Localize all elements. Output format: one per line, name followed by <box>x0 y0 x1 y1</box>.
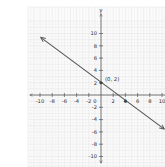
x-tick-label: 0 <box>93 98 96 104</box>
x-tick-label: -6 <box>62 98 67 104</box>
x-tick-label: -2 <box>86 98 91 104</box>
point-label: (0, 2) <box>105 76 119 82</box>
y-tick-label: 2 <box>94 80 97 86</box>
y-tick-label: -10 <box>89 153 97 159</box>
y-tick-label: 6 <box>94 55 97 61</box>
x-tick-label: 6 <box>136 98 139 104</box>
data-point <box>124 100 127 103</box>
y-tick-label: 10 <box>90 30 97 36</box>
x-tick-label: 8 <box>148 98 151 104</box>
x-tick-label: -4 <box>74 98 80 104</box>
y-tick-label: -6 <box>92 129 97 135</box>
y-tick-label: -4 <box>92 116 98 122</box>
y-tick-label: 8 <box>94 43 97 49</box>
x-tick-label: 2 <box>112 98 115 104</box>
coordinate-plane-chart: -10-8-6-4-20246810-10-8-6-4-2246810y (0,… <box>0 0 165 167</box>
data-point <box>100 81 103 84</box>
y-tick-label: -2 <box>92 104 97 110</box>
x-tick-label: -8 <box>50 98 55 104</box>
y-tick-label: -8 <box>92 141 97 147</box>
x-tick-label: 10 <box>159 98 165 104</box>
x-tick-label: -10 <box>36 98 44 104</box>
